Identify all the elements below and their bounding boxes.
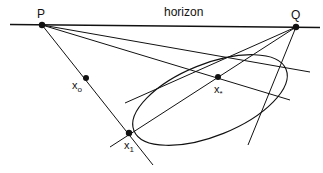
label-P: P	[37, 8, 45, 20]
line-P-upper-tangent	[42, 25, 310, 72]
point-P	[39, 22, 45, 28]
label-x1: x1	[124, 140, 134, 154]
point-x0	[83, 75, 89, 81]
label-Q: Q	[291, 9, 300, 21]
point-Q	[293, 24, 299, 30]
label-xstar: x*	[214, 84, 223, 98]
point-x1	[126, 130, 132, 136]
perspective-diagram	[0, 0, 323, 173]
line-Q-x1	[110, 27, 296, 147]
line-P-x1	[42, 25, 153, 165]
horizon-label: horizon	[164, 6, 203, 18]
label-x0: xo	[72, 80, 82, 94]
point-xstar	[215, 74, 221, 80]
ellipse	[120, 36, 299, 164]
